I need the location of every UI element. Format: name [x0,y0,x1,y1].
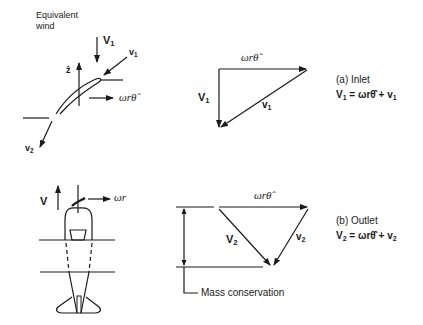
inlet-equation: V1 = ωrθ̂ + v1 [336,90,397,101]
outlet-equation: V2 = ωrθ̂ + v2 [336,231,397,242]
omega-r-label: ωr [114,192,126,203]
V-label: V [40,196,47,207]
v2-label: v2 [25,144,34,154]
v1-label: v1 [129,48,138,58]
equivalent-wind-label-1: Equivalent [36,11,78,20]
inlet-V1-label: V1 [198,92,210,105]
omega-r-theta-label: ωrθ̂ [119,92,136,103]
outlet-v2-label: v2 [296,232,305,243]
equivalent-wind-label-2: wind [36,22,55,31]
inlet-omega-r-theta-label: ωrθ̂ [241,52,258,63]
mass-conservation-label: Mass conservation [201,288,284,298]
v1-arrow [104,57,127,75]
inlet-velocity-triangle [219,69,307,127]
diagram-canvas [0,0,423,325]
blade-section-inlet [23,37,127,147]
inlet-v1-label: v1 [262,100,271,111]
v2-arrow [40,121,52,147]
V1-label: V1 [103,35,115,48]
outlet-omega-r-theta-label: ωrθ̂ [254,190,271,201]
z-hat-label: ẑ [66,66,71,75]
outlet-V2-label: V2 [226,234,238,247]
inlet-caption-title: (a) Inlet [336,75,370,85]
rotor-sketch [39,185,115,313]
outlet-caption-title: (b) Outlet [336,216,378,226]
outlet-velocity-triangle [176,207,308,293]
mass-conservation-leader [184,267,198,293]
airfoil [56,78,101,114]
